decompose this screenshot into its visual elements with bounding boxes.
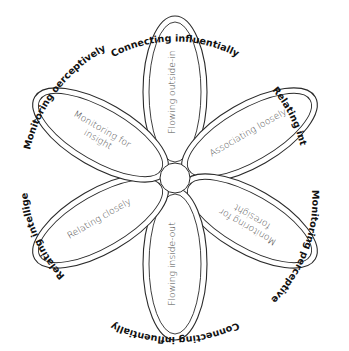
petal-label: Flowing outside-in [166,50,177,133]
svg-text:Flowing outside-in: Flowing outside-in [166,50,177,133]
svg-text:Flowing inside-out: Flowing inside-out [166,222,177,306]
flower-diagram: Flowing outside-in Associating loosely M… [0,0,349,351]
flower-svg: Flowing outside-in Associating loosely M… [0,0,349,351]
petal-label: Flowing inside-out [166,222,177,306]
center-circle [160,163,190,193]
